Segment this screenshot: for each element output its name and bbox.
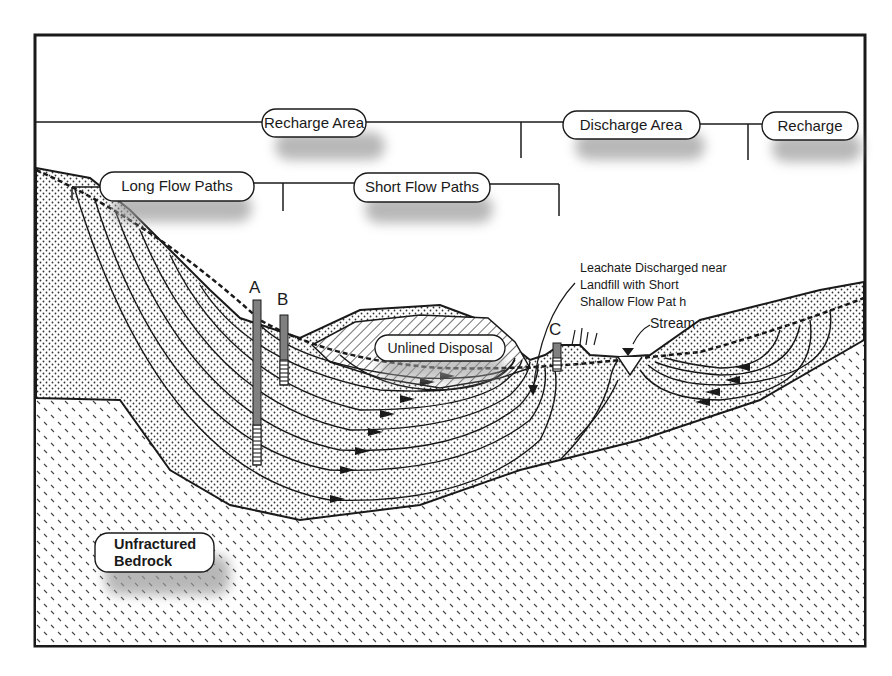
bedrock-label-line2: Bedrock — [114, 553, 173, 569]
well-b-label: B — [277, 290, 288, 309]
recharge-area-label: Recharge Area — [264, 114, 365, 131]
diagram-canvas: Stream Leachate Discharged near Landfill… — [0, 0, 892, 676]
well-c-label: C — [549, 320, 561, 339]
long-flow-paths-label: Long Flow Paths — [121, 177, 233, 194]
recharge-right-label: Recharge — [777, 117, 842, 134]
bedrock-label-line1: Unfractured — [114, 536, 196, 552]
leachate-note-line1: Leachate Discharged near — [580, 261, 727, 275]
leachate-note-line3: Shallow Flow Pat h — [580, 295, 686, 309]
unlined-disposal-label: Unlined Disposal — [387, 340, 492, 356]
discharge-area-label: Discharge Area — [580, 116, 683, 133]
short-flow-paths-label: Short Flow Paths — [365, 178, 479, 195]
cross-section-svg: Stream Leachate Discharged near Landfill… — [0, 0, 892, 676]
leachate-note-line2: Landfill with Short — [580, 278, 679, 292]
well-a-label: A — [249, 278, 261, 297]
stream-label: Stream — [650, 315, 695, 331]
